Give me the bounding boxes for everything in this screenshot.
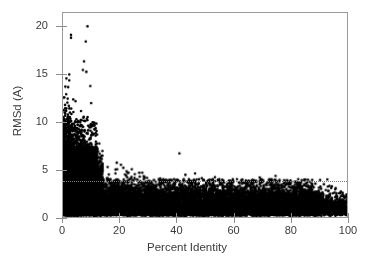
- y-tick-mark-inner: [62, 170, 67, 171]
- y-axis-title: RMSd (A): [11, 56, 23, 166]
- y-tick-label: 10: [36, 116, 48, 127]
- x-tick-mark-inner: [119, 213, 120, 218]
- x-tick-label: 0: [59, 225, 65, 236]
- x-tick-mark: [119, 218, 120, 223]
- y-tick-label: 5: [42, 164, 48, 175]
- x-tick-mark: [176, 218, 177, 223]
- x-tick-label: 80: [285, 225, 297, 236]
- x-tick-mark: [62, 218, 63, 223]
- y-tick-mark-inner: [62, 74, 67, 75]
- x-tick-mark: [348, 218, 349, 223]
- x-tick-mark-inner: [234, 213, 235, 218]
- y-tick-label: 20: [36, 20, 48, 31]
- y-tick-mark-inner: [62, 26, 67, 27]
- x-tick-mark-inner: [176, 213, 177, 218]
- x-tick-label: 100: [339, 225, 357, 236]
- x-tick-mark-inner: [291, 213, 292, 218]
- y-tick-label: 0: [42, 212, 48, 223]
- x-tick-label: 20: [113, 225, 125, 236]
- x-tick-mark: [234, 218, 235, 223]
- y-tick-mark-inner: [62, 122, 67, 123]
- x-tick-label: 60: [227, 225, 239, 236]
- scatter-plot-figure: 05101520 020406080100 Percent Identity R…: [0, 0, 374, 262]
- scatter-points-layer: [63, 13, 347, 217]
- x-tick-mark: [291, 218, 292, 223]
- x-axis-title: Percent Identity: [0, 241, 374, 253]
- x-tick-mark-inner: [348, 213, 349, 218]
- x-tick-label: 40: [170, 225, 182, 236]
- y-tick-label: 15: [36, 68, 48, 79]
- plot-area: [62, 12, 348, 218]
- x-tick-mark-inner: [62, 213, 63, 218]
